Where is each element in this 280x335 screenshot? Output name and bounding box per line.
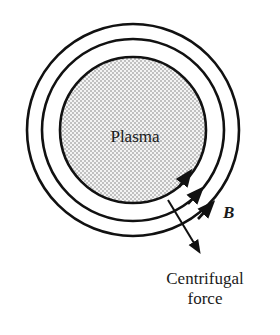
force-label-line1: Centrifugal [166,269,244,288]
plasma-diagram: Plasma B Centrifugal force [0,0,280,335]
field-label: B [222,203,234,222]
arrow-icon [188,193,198,204]
force-label-line2: force [188,289,223,308]
plasma-label: Plasma [110,127,160,146]
field-direction-arrows [179,176,209,219]
